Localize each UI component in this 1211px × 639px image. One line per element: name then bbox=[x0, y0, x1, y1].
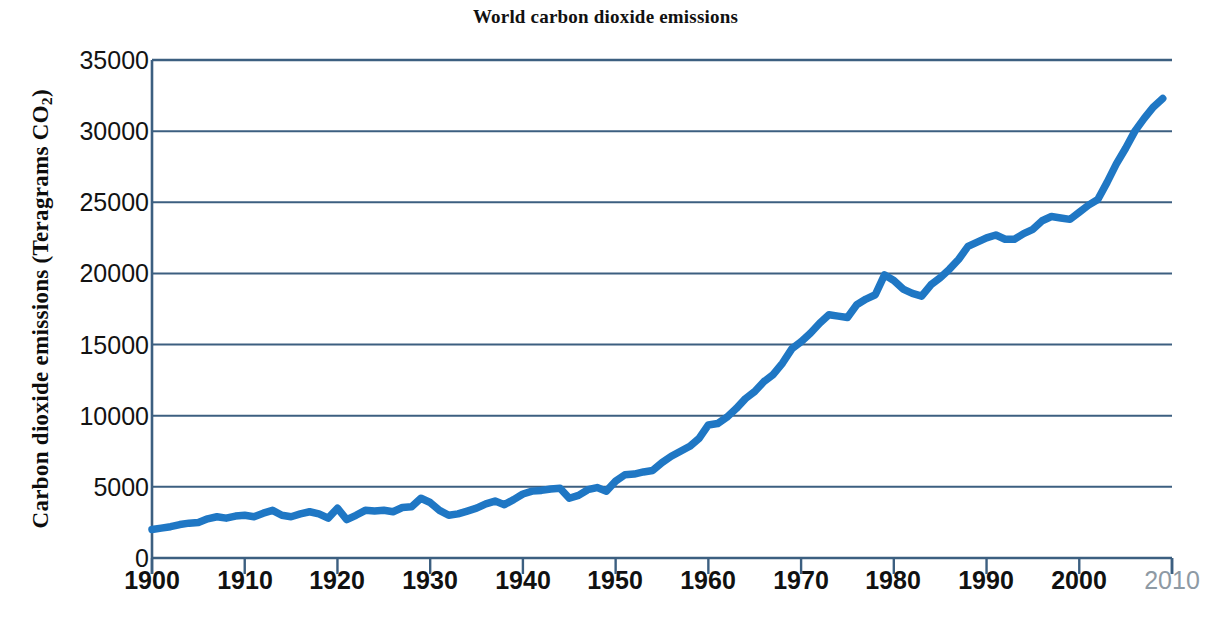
x-tick-marks bbox=[152, 558, 1172, 574]
data-series-line bbox=[152, 98, 1163, 529]
chart-figure: World carbon dioxide emissions Carbon di… bbox=[0, 0, 1211, 639]
gridlines bbox=[152, 60, 1172, 574]
plot-area bbox=[0, 0, 1211, 639]
